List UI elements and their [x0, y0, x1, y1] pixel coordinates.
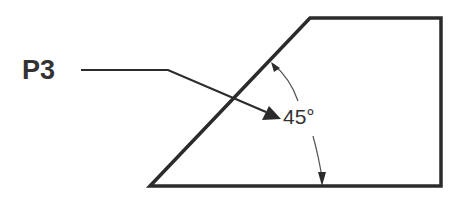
angle-label: 45° — [283, 105, 315, 129]
angle-arrowhead-upper-icon — [271, 62, 280, 72]
leader-arrowhead-icon — [262, 106, 281, 120]
chamfered-part-outline — [150, 18, 441, 186]
angle-arc-lower — [313, 136, 322, 178]
callout-label: P3 — [22, 55, 55, 86]
angle-arrowhead-lower-icon — [318, 172, 326, 186]
diagram-canvas — [0, 0, 462, 198]
